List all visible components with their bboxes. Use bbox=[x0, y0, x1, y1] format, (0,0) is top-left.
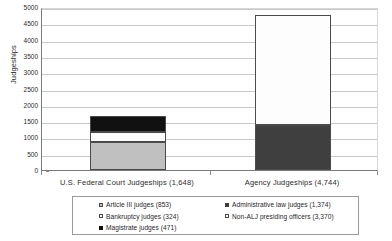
y-tick-label: 4000 bbox=[8, 37, 38, 44]
bar-segment[interactable] bbox=[90, 142, 166, 170]
stacked-bar-chart: Judgeships 50004500400035003000250020001… bbox=[0, 0, 392, 241]
stacked-bar[interactable] bbox=[90, 116, 166, 170]
legend-label: Bankruptcy judges (324) bbox=[106, 213, 179, 220]
legend-item[interactable]: Article III judges (853) bbox=[99, 199, 179, 211]
bar-segment[interactable] bbox=[255, 125, 331, 170]
legend-item[interactable]: Administrative law judges (1,374) bbox=[225, 199, 334, 211]
x-tick-mark bbox=[41, 171, 42, 175]
stacked-bar[interactable] bbox=[255, 15, 331, 170]
gridline bbox=[42, 9, 377, 10]
y-tick-label: 500 bbox=[8, 151, 38, 158]
legend-swatch-icon bbox=[225, 214, 229, 218]
x-tick-mark bbox=[210, 171, 211, 175]
legend-item[interactable]: Magistrate judges (471) bbox=[99, 222, 179, 234]
legend-item[interactable]: Bankruptcy judges (324) bbox=[99, 211, 179, 223]
legend-swatch-icon bbox=[225, 203, 229, 207]
y-tick-label: 3500 bbox=[8, 54, 38, 61]
y-tick-label: 1500 bbox=[8, 119, 38, 126]
y-tick-label: 1000 bbox=[8, 135, 38, 142]
bar-segment[interactable] bbox=[90, 116, 166, 131]
legend-label: Non-ALJ presiding officers (3,370) bbox=[232, 213, 334, 220]
x-tick-label: U.S. Federal Court Judgeships (1,648) bbox=[60, 178, 194, 187]
x-tick-mark bbox=[377, 171, 378, 175]
legend-swatch-icon bbox=[99, 226, 103, 230]
legend-column-right: Administrative law judges (1,374)Non-ALJ… bbox=[225, 199, 334, 222]
legend-item[interactable]: Non-ALJ presiding officers (3,370) bbox=[225, 211, 334, 223]
y-tick-label: 2500 bbox=[8, 86, 38, 93]
y-tick-label: 5000 bbox=[8, 5, 38, 12]
legend-column-left: Article III judges (853)Bankruptcy judge… bbox=[99, 199, 179, 234]
x-tick-label: Agency Judgeships (4,744) bbox=[245, 178, 340, 187]
bar-segment[interactable] bbox=[255, 15, 331, 125]
bar-segment[interactable] bbox=[90, 132, 166, 143]
x-axis-tick-marks bbox=[41, 171, 378, 176]
legend-swatch-icon bbox=[99, 214, 103, 218]
legend-label: Magistrate judges (471) bbox=[106, 224, 176, 231]
chart-legend: Article III judges (853)Bankruptcy judge… bbox=[72, 196, 359, 235]
legend-label: Article III judges (853) bbox=[106, 201, 171, 208]
x-axis-tick-labels: U.S. Federal Court Judgeships (1,648)Age… bbox=[41, 178, 378, 190]
y-tick-label: 2000 bbox=[8, 103, 38, 110]
plot-area bbox=[41, 8, 378, 171]
y-tick-label: 4500 bbox=[8, 21, 38, 28]
legend-label: Administrative law judges (1,374) bbox=[232, 201, 331, 208]
y-tick-label: 0 bbox=[8, 168, 38, 175]
legend-swatch-icon bbox=[99, 203, 103, 207]
y-tick-label: 3000 bbox=[8, 70, 38, 77]
y-axis-tick-labels: 5000450040003500300025002000150010005000 bbox=[8, 8, 38, 171]
